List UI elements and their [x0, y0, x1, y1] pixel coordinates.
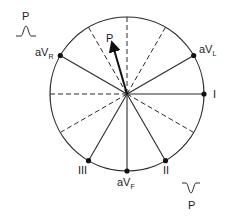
lead-aVR-dot [58, 53, 63, 58]
axis-30-dashed [127, 94, 194, 133]
axis-150-dashed [60, 94, 127, 133]
lead-II-axis [127, 94, 166, 161]
lead-II-dot [163, 158, 168, 163]
lead-aVR-label: aVR [35, 46, 54, 60]
p-axis-label: P [106, 32, 113, 44]
lead-aVF-label: aVF [117, 176, 135, 190]
lead-II-label: II [163, 164, 169, 176]
lead-III-label: III [78, 164, 87, 176]
lead-aVL-label: aVL [199, 43, 216, 57]
lead-III-dot [86, 158, 91, 163]
inverted-p-wave-icon [182, 183, 200, 193]
lead-aVL-axis [127, 56, 194, 95]
lead-aVL-dot [191, 53, 196, 58]
upright-p-wave-icon [16, 26, 36, 36]
upright-p-wave-label: P [22, 10, 29, 22]
lead-I-dot [201, 91, 206, 96]
lead-III-axis [89, 94, 128, 161]
lead-I-label: I [213, 88, 216, 100]
inverted-p-wave-label: P [188, 199, 195, 211]
lead-axes [60, 56, 204, 172]
axis-minus60-dashed [127, 27, 166, 94]
lead-aVF-dot [124, 168, 129, 173]
hexaxial-diagram: P I aVL aVR aVF II III P P [0, 0, 233, 222]
